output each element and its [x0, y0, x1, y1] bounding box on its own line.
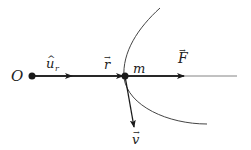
- velocity-label: v →: [132, 128, 140, 147]
- force-label-arrow: →: [179, 46, 186, 55]
- force-label: F →: [177, 46, 189, 66]
- unit-vector-label-hat: ^: [47, 53, 55, 64]
- mass-label: m: [133, 61, 145, 76]
- velocity-vector-arrow: [125, 76, 134, 127]
- position-vector-label-arrow: →: [104, 53, 111, 62]
- position-vector-label: r →: [104, 53, 111, 72]
- unit-vector-label-sub: r: [55, 64, 60, 73]
- unit-vector-label: u ^ r: [46, 53, 60, 73]
- origin-point: [29, 73, 36, 80]
- origin-label: O: [11, 67, 23, 85]
- mass-point: [122, 73, 129, 80]
- central-force-diagram: O u ^ r r → m F → v →: [0, 0, 251, 150]
- velocity-label-arrow: →: [133, 128, 140, 137]
